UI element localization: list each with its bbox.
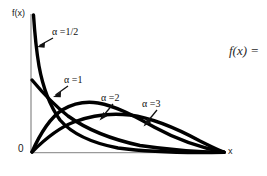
curve-label-alpha-one: α =1 bbox=[64, 74, 82, 85]
curve-label-alpha-two: α =2 bbox=[101, 92, 119, 103]
arrow-alpha-one bbox=[53, 86, 68, 97]
y-axis-label: f(x) bbox=[12, 8, 25, 18]
curve-label-alpha-half: α =1/2 bbox=[52, 26, 78, 37]
curve-label-alpha-three: α =3 bbox=[142, 98, 160, 109]
origin-label: 0 bbox=[18, 143, 24, 154]
figure-canvas: f(x) x 0 α =1/2 α =1 α =2 α =3 f(x) = bbox=[0, 0, 267, 176]
arrow-alpha-half bbox=[37, 38, 53, 48]
gamma-distribution-plot bbox=[0, 0, 267, 176]
x-axis-label: x bbox=[228, 146, 233, 156]
formula-text: f(x) = bbox=[229, 43, 259, 59]
